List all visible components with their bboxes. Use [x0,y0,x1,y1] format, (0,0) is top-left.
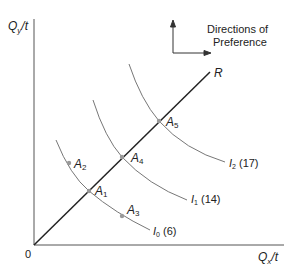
point-a1 [87,189,91,193]
curve-label-i0: I0(6) [153,225,176,238]
point-label-a2: A2 [73,157,87,172]
y-axis-label: Qy/t [8,19,29,35]
point-a2 [67,161,71,165]
curve-label-i1: I1(14) [191,193,221,206]
origin-label: 0 [25,248,31,260]
preference-arrows-icon [171,20,212,56]
indifference-curve-i2 [129,64,225,162]
curve-label-i2: I2(17) [229,157,259,170]
legend-line-2: Preference [213,36,267,48]
point-label-a5: A5 [165,115,179,130]
indifference-diagram: Qy/t Qx/t 0 Directions of Preference R I… [0,0,294,267]
point-label-a3: A3 [126,203,140,218]
point-label-a4: A4 [130,151,144,166]
ray-label: R [214,66,223,80]
point-label-a1: A1 [94,184,108,199]
point-a5 [157,119,161,123]
point-a4 [120,155,124,159]
point-a3 [120,214,124,218]
x-axis-label: Qx/t [258,250,279,266]
legend-line-1: Directions of [207,23,269,35]
